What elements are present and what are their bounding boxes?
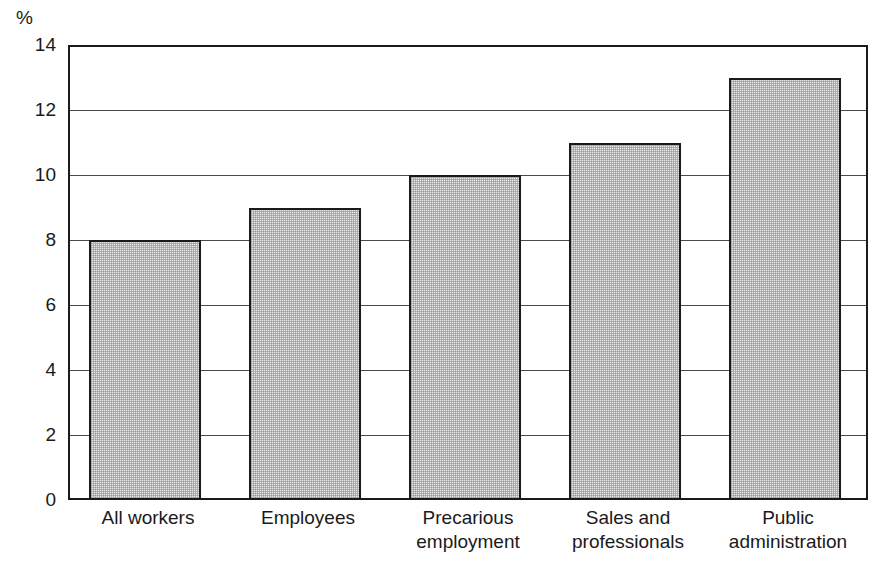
y-tick-label-8: 8 <box>10 230 56 249</box>
y-tick-label-10: 10 <box>10 165 56 184</box>
x-label-line2: administration <box>708 530 868 554</box>
cropped-title-sliver <box>8 0 528 5</box>
y-tick-label-0: 0 <box>10 490 56 509</box>
y-tick-label-2: 2 <box>10 425 56 444</box>
y-tick-label-14: 14 <box>10 35 56 54</box>
y-axis-tick-labels: 02468101214 <box>0 45 56 500</box>
x-label-line2: employment <box>388 530 548 554</box>
x-axis-category-labels: All workersEmployeesPrecariousemployment… <box>68 506 868 568</box>
plot-area-frame <box>68 45 868 500</box>
gridline-12 <box>70 110 866 111</box>
x-label-line1: Employees <box>261 507 355 528</box>
gridline-8 <box>70 240 866 241</box>
y-tick-label-12: 12 <box>10 100 56 119</box>
y-tick-label-6: 6 <box>10 295 56 314</box>
x-label-line1: Precarious <box>423 507 514 528</box>
x-label-1: Employees <box>228 506 388 530</box>
y-axis-unit-label: % <box>16 8 33 27</box>
x-label-0: All workers <box>68 506 228 530</box>
gridline-10 <box>70 175 866 176</box>
gridline-6 <box>70 305 866 306</box>
x-label-3: Sales andprofessionals <box>548 506 708 554</box>
gridline-2 <box>70 435 866 436</box>
y-tick-label-4: 4 <box>10 360 56 379</box>
x-label-line1: Public <box>762 507 814 528</box>
x-label-line1: Sales and <box>586 507 671 528</box>
x-label-line1: All workers <box>102 507 195 528</box>
bar-chart-figure: % 02468101214 All workersEmployeesPrecar… <box>0 0 887 573</box>
x-label-line2: professionals <box>548 530 708 554</box>
gridline-4 <box>70 370 866 371</box>
x-label-4: Publicadministration <box>708 506 868 554</box>
x-label-2: Precariousemployment <box>388 506 548 554</box>
